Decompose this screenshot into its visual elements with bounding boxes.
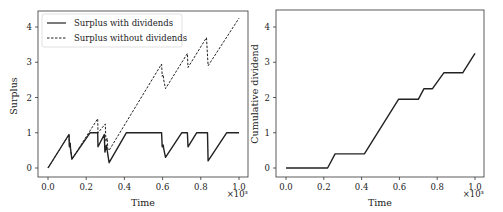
plot-frame xyxy=(276,10,484,177)
legend-entry-without-dividends: Surplus without dividends xyxy=(74,33,187,43)
surplus-plot: 0.00.20.40.60.81.0 01234 Time ×10³ Surpl… xyxy=(8,11,248,208)
x-tick-label: 0.0 xyxy=(279,182,293,192)
x-tick-label: 0.6 xyxy=(156,182,170,192)
y-tick-label: 0 xyxy=(265,163,270,173)
x-axis-ticks: 0.00.20.40.60.81.0 xyxy=(41,177,246,192)
y-tick-label: 2 xyxy=(27,93,32,103)
plot-lines xyxy=(286,53,475,168)
y-tick-label: 3 xyxy=(265,57,270,67)
chart-figure: 0.00.20.40.60.81.0 01234 Time ×10³ Surpl… xyxy=(0,0,503,212)
legend-entry-with-dividends: Surplus with dividends xyxy=(74,18,173,28)
y-tick-label: 3 xyxy=(27,57,32,67)
x-axis-ticks: 0.00.20.40.60.81.0 xyxy=(279,177,482,192)
x-tick-label: 0.0 xyxy=(41,182,55,192)
y-tick-label: 1 xyxy=(27,128,32,138)
y-tick-label: 4 xyxy=(265,22,270,32)
y-axis-label: Surplus xyxy=(8,77,19,114)
x-tick-label: 0.2 xyxy=(79,182,93,192)
y-tick-label: 4 xyxy=(27,22,32,32)
x-axis-label: Time xyxy=(368,197,392,208)
series-line-solid xyxy=(48,133,239,168)
x-tick-label: 0.4 xyxy=(355,182,369,192)
x-axis-label: Time xyxy=(131,197,155,208)
series-line-solid xyxy=(286,53,475,168)
x-tick-label: 0.4 xyxy=(118,182,132,192)
y-axis-ticks: 01234 xyxy=(27,22,38,173)
x-scale-note: ×10³ xyxy=(463,189,484,199)
y-tick-label: 2 xyxy=(265,93,270,103)
y-tick-label: 0 xyxy=(27,163,32,173)
x-tick-label: 0.8 xyxy=(430,182,444,192)
x-tick-label: 0.8 xyxy=(194,182,208,192)
x-tick-label: 0.2 xyxy=(317,182,331,192)
x-tick-label: 0.6 xyxy=(393,182,407,192)
legend: Surplus with dividends Surplus without d… xyxy=(42,14,187,47)
x-scale-note: ×10³ xyxy=(227,189,248,199)
y-axis-ticks: 01234 xyxy=(265,22,276,173)
cumulative-dividend-plot: 0.00.20.40.60.81.0 01234 Time ×10³ Cumul… xyxy=(249,10,484,208)
y-axis-label: Cumulative dividend xyxy=(249,44,260,144)
y-tick-label: 1 xyxy=(265,128,270,138)
